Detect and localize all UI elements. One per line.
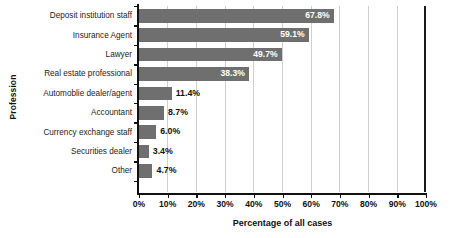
y-axis-tick bbox=[134, 181, 138, 182]
bar-row: 38.3% bbox=[139, 64, 426, 83]
bar-row: 49.7% bbox=[139, 45, 426, 64]
y-axis-tick bbox=[134, 142, 138, 143]
y-axis-tick bbox=[134, 45, 138, 46]
x-axis-tick bbox=[311, 195, 312, 199]
x-axis-tick bbox=[426, 195, 427, 199]
bar-value-label: 11.4% bbox=[172, 87, 200, 101]
bar-value-label: 49.7% bbox=[253, 48, 281, 62]
y-axis-tick bbox=[134, 84, 138, 85]
category-label-text: Other bbox=[112, 166, 132, 175]
y-axis-tick bbox=[134, 6, 138, 7]
bar-row: 3.4% bbox=[139, 142, 426, 161]
category-label: Securities dealer bbox=[14, 142, 136, 161]
x-axis-tick bbox=[369, 195, 370, 199]
category-label-column: Deposit institution staffInsurance Agent… bbox=[14, 6, 136, 192]
y-axis-tick bbox=[134, 25, 138, 26]
y-axis-tick bbox=[134, 64, 138, 65]
x-axis-tick-label: 90% bbox=[389, 199, 406, 209]
category-label: Currency exchange staff bbox=[14, 122, 136, 141]
bar bbox=[139, 164, 152, 178]
bar-row: 11.4% bbox=[139, 84, 426, 103]
x-axis-tick bbox=[139, 195, 140, 199]
y-axis-tick bbox=[134, 122, 138, 123]
x-axis-tick-label: 20% bbox=[188, 199, 205, 209]
x-axis-tick bbox=[340, 195, 341, 199]
category-label-text: Deposit institution staff bbox=[50, 11, 132, 20]
category-label-text: Real estate professional bbox=[44, 69, 132, 78]
category-label-text: Securities dealer bbox=[71, 147, 132, 156]
category-label-text: Currency exchange staff bbox=[43, 128, 132, 137]
x-axis-tick bbox=[168, 195, 169, 199]
x-axis-tick-label: 10% bbox=[159, 199, 176, 209]
bar-value-label: 67.8% bbox=[305, 9, 333, 23]
bar-row: 4.7% bbox=[139, 161, 426, 180]
x-axis-tick-label: 100% bbox=[415, 199, 437, 209]
category-label: Lawyer bbox=[14, 45, 136, 64]
x-axis-tick-label: 0% bbox=[133, 199, 145, 209]
bar-value-label: 59.1% bbox=[280, 28, 308, 42]
x-axis-tick bbox=[283, 195, 284, 199]
x-axis-tick bbox=[397, 195, 398, 199]
bar-value-label: 8.7% bbox=[164, 106, 188, 120]
bar-series: 67.8%59.1%49.7%38.3%11.4%8.7%6.0%3.4%4.7… bbox=[139, 6, 426, 192]
bar bbox=[139, 87, 172, 101]
category-label: Automoblie dealer/agent bbox=[14, 84, 136, 103]
x-axis-tick bbox=[225, 195, 226, 199]
bar-value-label: 6.0% bbox=[156, 125, 180, 139]
bar-row: 59.1% bbox=[139, 25, 426, 44]
bar-value-label: 38.3% bbox=[221, 67, 249, 81]
category-label-text: Lawyer bbox=[106, 50, 132, 59]
y-axis-tick bbox=[134, 103, 138, 104]
bar-row: 6.0% bbox=[139, 122, 426, 141]
bar bbox=[139, 145, 149, 159]
plot-area: 67.8%59.1%49.7%38.3%11.4%8.7%6.0%3.4%4.7… bbox=[139, 6, 426, 192]
x-axis-tick-label: 30% bbox=[216, 199, 233, 209]
category-label: Real estate professional bbox=[14, 64, 136, 83]
bar-row: 67.8% bbox=[139, 6, 426, 25]
bar bbox=[139, 106, 164, 120]
bar-value-label: 4.7% bbox=[152, 164, 176, 178]
bar bbox=[139, 125, 156, 139]
category-label: Accountant bbox=[14, 103, 136, 122]
y-axis-tick bbox=[134, 161, 138, 162]
x-axis-tick-label: 80% bbox=[360, 199, 377, 209]
x-axis-tick bbox=[196, 195, 197, 199]
category-label: Other bbox=[14, 161, 136, 180]
category-label-text: Accountant bbox=[91, 108, 132, 117]
bar-value-label: 3.4% bbox=[149, 145, 173, 159]
x-axis-tick-label: 40% bbox=[245, 199, 262, 209]
bar-row: 8.7% bbox=[139, 103, 426, 122]
x-axis-title: Percentage of all cases bbox=[139, 218, 426, 228]
x-axis-tick-label: 50% bbox=[274, 199, 291, 209]
bar-chart: Profession Deposit institution staffInsu… bbox=[0, 0, 452, 238]
category-label: Insurance Agent bbox=[14, 25, 136, 44]
x-axis-tick-label: 70% bbox=[331, 199, 348, 209]
x-axis-tick-label: 60% bbox=[303, 199, 320, 209]
category-label-text: Automoblie dealer/agent bbox=[43, 89, 132, 98]
category-label: Deposit institution staff bbox=[14, 6, 136, 25]
category-label-text: Insurance Agent bbox=[73, 31, 132, 40]
x-axis-tick bbox=[254, 195, 255, 199]
